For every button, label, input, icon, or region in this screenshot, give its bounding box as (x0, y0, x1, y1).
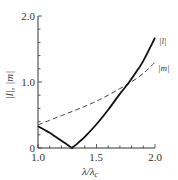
chart: 0 1.0 2.0 1.0 1.5 2.0 |l|, |m| λ/λc |l| … (0, 0, 178, 180)
x-ticks (38, 144, 155, 148)
x-axis-label-subscript: c (95, 170, 99, 179)
y-tick-label-2: 2.0 (21, 10, 35, 22)
x-tick-label-0: 1.0 (31, 151, 45, 163)
y-tick-label-1: 1.0 (21, 76, 35, 88)
x-tick-label-1: 1.5 (89, 151, 103, 163)
series-l-label: |l| (159, 36, 166, 46)
series-m-label: |m| (158, 63, 169, 73)
x-axis-label-main: λ/λ (81, 165, 95, 177)
series-l-curve (38, 38, 155, 148)
y-axis-label: |l|, |m| (3, 71, 15, 100)
x-axis-label: λ/λc (81, 165, 99, 179)
x-tick-label-2: 2.0 (148, 151, 162, 163)
